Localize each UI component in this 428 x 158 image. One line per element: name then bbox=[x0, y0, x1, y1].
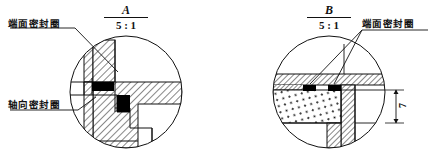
seal-face-b-right bbox=[328, 85, 341, 91]
detail-title-b-scale: 5 : 1 bbox=[307, 17, 351, 31]
callout-face-seal-ring-a: 端面密封圈 bbox=[8, 19, 60, 29]
detail-title-a-scale: 5 : 1 bbox=[104, 17, 148, 31]
detail-view-b bbox=[273, 30, 428, 148]
detail-view-a bbox=[10, 28, 182, 148]
drawing-canvas: A 5 : 1 B 5 : 1 端面密封圈 轴向密封圈 端面密封圈 7 bbox=[0, 0, 428, 158]
view-a-section bbox=[70, 36, 182, 148]
detail-title-b: B 5 : 1 bbox=[307, 4, 351, 31]
detail-title-b-letter: B bbox=[307, 4, 351, 17]
seal-axial-a bbox=[117, 95, 130, 112]
seal-face-a bbox=[92, 82, 114, 91]
seal-face-b-left bbox=[303, 85, 316, 91]
callout-axial-seal-ring-a: 轴向密封圈 bbox=[8, 100, 60, 110]
dimension-value-7: 7 bbox=[397, 103, 408, 108]
view-b-section bbox=[273, 36, 385, 148]
detail-title-a-letter: A bbox=[104, 4, 148, 17]
callout-face-seal-ring-b: 端面密封圈 bbox=[362, 19, 414, 29]
detail-title-a: A 5 : 1 bbox=[104, 4, 148, 31]
